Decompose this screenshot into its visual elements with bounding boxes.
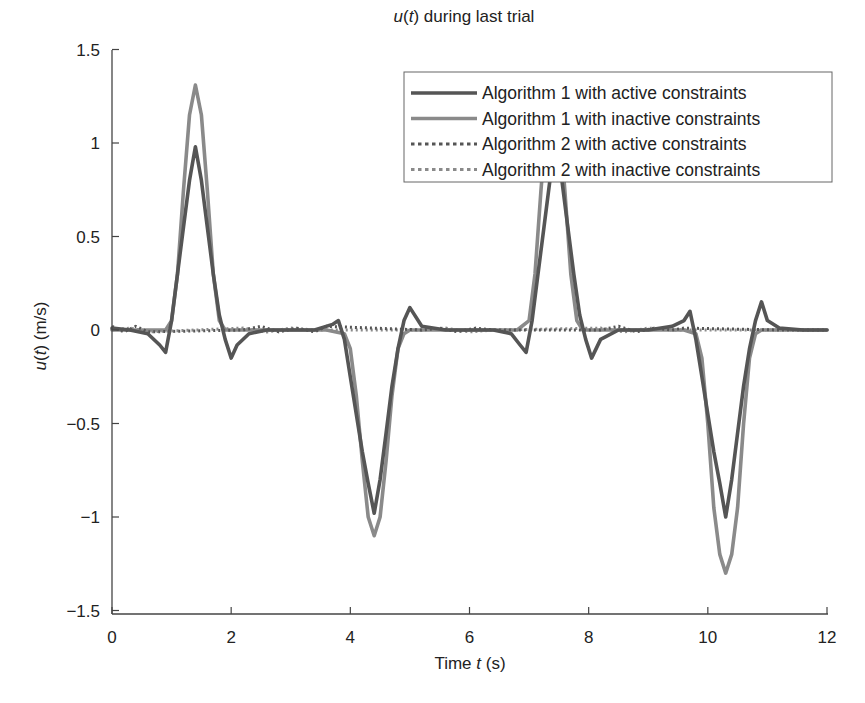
chart-title: u(t) during last trial <box>394 7 535 26</box>
x-tick-label: 0 <box>107 628 116 647</box>
y-tick-label: −1.5 <box>66 602 100 621</box>
legend: Algorithm 1 with active constraintsAlgor… <box>404 72 832 182</box>
line-chart: u(t) during last trial 024681012 1.510.5… <box>0 0 865 703</box>
legend-label: Algorithm 2 with active constraints <box>482 134 747 154</box>
x-tick-label: 10 <box>698 628 717 647</box>
x-ticks: 024681012 <box>107 607 836 647</box>
y-tick-label: 0.5 <box>76 228 100 247</box>
title-rest: during last trial <box>419 7 534 26</box>
x-tick-label: 12 <box>818 628 837 647</box>
y-tick-label: −1 <box>81 508 100 527</box>
y-tick-label: −0.5 <box>66 415 100 434</box>
legend-label: Algorithm 1 with active constraints <box>482 83 747 103</box>
y-axis-label: u(t) (m/s) <box>31 302 50 371</box>
legend-label: Algorithm 2 with inactive constraints <box>482 160 760 180</box>
y-tick-label: 1.5 <box>76 41 100 60</box>
y-tick-label: 1 <box>91 134 100 153</box>
legend-label: Algorithm 1 with inactive constraints <box>482 109 760 129</box>
y-tick-label: 0 <box>91 321 100 340</box>
x-axis-label: Time t (s) <box>434 654 505 673</box>
x-tick-label: 8 <box>584 628 593 647</box>
x-tick-label: 4 <box>346 628 355 647</box>
x-tick-label: 6 <box>465 628 474 647</box>
x-tick-label: 2 <box>226 628 235 647</box>
